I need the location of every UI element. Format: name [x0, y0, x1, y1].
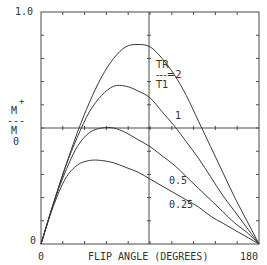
curve-tr-t1-1: [41, 85, 259, 244]
curve-label-0-25: 0.25: [169, 200, 193, 210]
curve-tr-t1-0-25: [41, 160, 259, 244]
y-tick-bottom: 0: [30, 236, 36, 246]
y-sup: +: [19, 96, 24, 106]
x-axis-title: FLIP ANGLE (DEGREES): [88, 252, 208, 262]
y-tick-top: 1.0: [15, 7, 33, 17]
y-axis-label: + M --- M 0: [7, 96, 29, 146]
y-denominator: M: [11, 126, 17, 136]
legend-t1: T1: [156, 80, 168, 90]
curve-label-0-5: 0.5: [169, 176, 187, 186]
curve-tr-t1-2: [41, 45, 259, 245]
y-sub: 0: [13, 137, 19, 147]
chart-plot: [0, 0, 267, 265]
curve-label-1: 1: [175, 111, 181, 121]
x-tick-right: 180: [240, 252, 258, 262]
x-tick-left: 0: [38, 252, 44, 262]
curves: [41, 45, 259, 245]
